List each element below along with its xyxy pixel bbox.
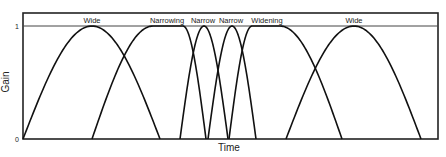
gain-curve-wide [23,26,160,139]
plot-frame [23,13,438,139]
segment-label: Narrow [191,16,216,25]
segment-label: Narrowing [150,16,184,25]
gain-curve-wide [286,26,421,139]
segment-label: Wide [345,16,362,25]
gain-chart: WideNarrowingNarrowNarrowWideningWide 1 … [0,0,446,157]
segment-label: Narrow [219,16,244,25]
y-tick-0: 0 [15,136,19,143]
y-axis-label: Gain [0,71,11,92]
segment-labels: WideNarrowingNarrowNarrowWideningWide [83,16,362,25]
x-axis-label: Time [218,142,240,153]
y-tick-1: 1 [15,23,19,30]
gain-curve-widening [229,26,342,139]
segment-label: Wide [83,16,100,25]
gain-curve-narrowing [92,26,206,139]
segment-label: Widening [251,16,282,25]
gain-curves [23,26,421,139]
